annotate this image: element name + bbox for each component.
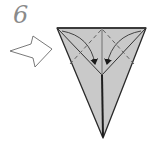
hollow-push-arrow-icon <box>10 36 52 67</box>
origami-step-diagram: 6 <box>0 0 156 144</box>
diagram-canvas <box>0 0 156 144</box>
